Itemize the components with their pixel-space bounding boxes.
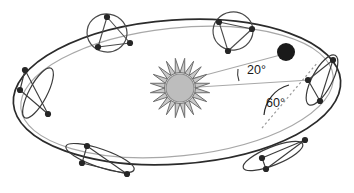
angle-60-label: 60°: [266, 96, 285, 110]
satellite-orbit-top-left-node-dot: [95, 44, 101, 50]
satellite-orbit-left-node-dot: [22, 67, 28, 73]
satellite-orbit-bottom-right-node-dot: [259, 155, 265, 161]
orbit-diagram-svg: 20° 60°: [0, 0, 354, 193]
satellite-orbit-bottom-right-node-dot: [302, 137, 308, 143]
satellite-orbit-left-node-dot: [17, 87, 23, 93]
satellite-orbit-top-center-node-dot: [249, 26, 255, 32]
satellite-orbit-top-center-node-dot: [216, 19, 222, 25]
satellite-orbit-bottom-left-node-dot: [79, 160, 85, 166]
planet-disc: [277, 43, 295, 61]
satellite-orbit-right-node-dot: [330, 57, 336, 63]
satellite-orbit-top-center-node-dot: [225, 48, 231, 54]
angle-20-label: 20°: [247, 63, 266, 77]
planet-body: [277, 43, 295, 61]
satellite-orbit-right-node-dot: [317, 98, 323, 104]
satellite-orbit-left-node-dot: [45, 111, 51, 117]
satellite-orbit-bottom-left-node-dot: [124, 171, 130, 177]
satellite-orbit-top-left-node-dot: [104, 14, 110, 20]
orbital-diagram-canvas: 20° 60°: [0, 0, 354, 193]
satellite-orbit-bottom-left-node-dot: [84, 143, 90, 149]
satellite-orbit-bottom-right-node-dot: [263, 166, 269, 172]
satellite-orbit-right-node-dot: [305, 77, 311, 83]
satellite-orbit-top-left-node-dot: [127, 40, 133, 46]
sun-core: [166, 74, 194, 102]
